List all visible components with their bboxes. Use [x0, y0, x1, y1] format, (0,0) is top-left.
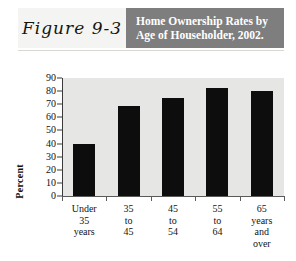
bar	[251, 91, 273, 196]
x-tick-label-line: to	[195, 215, 239, 227]
x-tick-label: 55to64	[195, 203, 239, 238]
y-axis-line	[62, 78, 63, 197]
x-axis-line	[62, 196, 285, 197]
y-tick-label: 20	[46, 165, 56, 175]
figure-label-box: Figure 9-3	[18, 8, 126, 48]
x-tick-label-line: years	[62, 226, 106, 238]
x-tick-label-line: years	[240, 215, 284, 227]
y-axis-tick-labels: 0102030405060708090	[30, 78, 56, 196]
x-tick-label: Under35years	[62, 203, 106, 238]
x-tick-label-line: and	[240, 226, 284, 238]
bar	[206, 88, 228, 196]
y-tick-label: 80	[46, 86, 56, 96]
x-axis-tick-labels: Under35years35to4545to5455to6465yearsand…	[62, 203, 284, 261]
x-tick-label-line: 65	[240, 203, 284, 215]
x-tick-label-line: to	[106, 215, 150, 227]
bar	[162, 98, 184, 196]
x-tick-label-line: 35	[62, 215, 106, 227]
figure-caption-header: Figure 9-3 Home Ownership Rates by Age o…	[18, 8, 284, 48]
bar	[118, 106, 140, 196]
x-tick-label-line: 54	[151, 226, 195, 238]
y-tick-label: 30	[46, 152, 56, 162]
x-tick-mark	[62, 197, 63, 201]
y-tick-label: 60	[46, 112, 56, 122]
figure-title-box: Home Ownership Rates by Age of Household…	[126, 8, 284, 48]
x-tick-mark	[106, 197, 107, 201]
x-tick-mark	[195, 197, 196, 201]
x-tick-mark	[284, 197, 285, 201]
x-tick-label-line: 55	[195, 203, 239, 215]
x-tick-label-line: 45	[106, 226, 150, 238]
y-tick-label: 70	[46, 99, 56, 109]
y-tick-label: 10	[46, 178, 56, 188]
y-tick-label: 40	[46, 139, 56, 149]
x-tick-mark	[151, 197, 152, 201]
x-tick-label: 45to54	[151, 203, 195, 238]
y-tick-label: 90	[46, 73, 56, 83]
bar	[73, 144, 95, 196]
x-tick-label-line: 64	[195, 226, 239, 238]
x-tick-mark	[240, 197, 241, 201]
bar-chart: Percent 0102030405060708090 Under35years…	[0, 56, 296, 261]
x-tick-label-line: over	[240, 238, 284, 250]
x-tick-label: 65yearsandover	[240, 203, 284, 249]
header-divider	[18, 50, 284, 51]
x-tick-label-line: 35	[106, 203, 150, 215]
x-tick-label-line: to	[151, 215, 195, 227]
y-axis-title: Percent	[14, 164, 28, 199]
y-tick-label: 0	[51, 191, 56, 201]
y-tick-label: 50	[46, 125, 56, 135]
figure-title-line-1: Home Ownership Rates by	[136, 14, 284, 28]
figure-title-line-2: Age of Householder, 2002.	[136, 28, 284, 42]
x-tick-label-line: Under	[62, 203, 106, 215]
x-tick-label: 35to45	[106, 203, 150, 238]
figure-label: Figure 9-3	[22, 18, 122, 38]
x-tick-label-line: 45	[151, 203, 195, 215]
